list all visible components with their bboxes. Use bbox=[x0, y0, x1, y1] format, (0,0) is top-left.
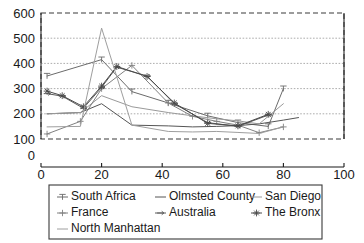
legend-label: Australia bbox=[169, 205, 216, 219]
x-tick-60: 60 bbox=[216, 167, 230, 182]
legend-label: France bbox=[71, 205, 109, 219]
y-tick-100: 100 bbox=[13, 132, 35, 147]
legend-label: South Africa bbox=[71, 189, 136, 203]
legend-label: Olmsted County bbox=[169, 189, 255, 203]
x-tick-40: 40 bbox=[155, 167, 169, 182]
legend-label: The Bronx bbox=[265, 205, 320, 219]
legend-label: San Diego bbox=[265, 189, 321, 203]
legend-item-san-diego[interactable]: San Diego bbox=[251, 189, 321, 203]
gridlines bbox=[41, 38, 344, 114]
series-australia bbox=[44, 65, 272, 128]
y-tick-500: 500 bbox=[13, 31, 35, 46]
x-tick-20: 20 bbox=[94, 167, 108, 182]
legend-label: North Manhattan bbox=[71, 221, 160, 235]
series-the-bronx bbox=[44, 63, 272, 129]
legend-item-olmsted-county[interactable]: Olmsted County bbox=[155, 189, 255, 203]
y-tick-400: 400 bbox=[13, 56, 35, 71]
chart-canvas: 100200300400500600 020406080100 0 South … bbox=[0, 0, 364, 243]
y-tick-200: 200 bbox=[13, 106, 35, 121]
legend-item-the-bronx[interactable]: The Bronx bbox=[251, 205, 320, 219]
x-tick-0: 0 bbox=[37, 167, 44, 182]
x-tick-80: 80 bbox=[276, 167, 290, 182]
plot-frame bbox=[41, 13, 344, 139]
legend-item-north-manhattan[interactable]: North Manhattan bbox=[57, 221, 160, 235]
y-axis-tick-labels: 100200300400500600 bbox=[13, 6, 35, 147]
series-lines bbox=[44, 28, 299, 137]
plot-side-borders bbox=[41, 13, 344, 139]
y-tick-600: 600 bbox=[13, 6, 35, 21]
legend-item-france[interactable]: France bbox=[57, 205, 109, 219]
legend-item-australia[interactable]: Australia bbox=[155, 205, 216, 219]
line-chart-figure: 100200300400500600 020406080100 0 South … bbox=[0, 0, 364, 243]
legend-item-south-africa[interactable]: South Africa bbox=[57, 189, 136, 203]
x-tick-100: 100 bbox=[333, 167, 355, 182]
chart-legend: South AfricaOlmsted CountySan DiegoFranc… bbox=[49, 185, 322, 239]
x-axis: 020406080100 bbox=[37, 163, 354, 182]
series-north-manhattan bbox=[47, 28, 283, 133]
origin-zero-label: 0 bbox=[28, 148, 35, 163]
y-tick-300: 300 bbox=[13, 81, 35, 96]
